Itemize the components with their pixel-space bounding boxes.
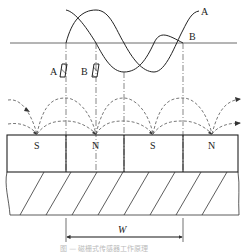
signal-a-label: A (201, 6, 209, 17)
substrate-base (6, 172, 239, 215)
head-b-label: B (81, 66, 88, 77)
sensor-head-b (92, 64, 99, 77)
pole-2-label: N (92, 140, 99, 151)
figure-caption: 图 — 磁栅式传感器工作原理 (60, 244, 148, 252)
field-arrowheads (24, 97, 241, 135)
head-a-label: A (50, 66, 58, 77)
signal-curve-b (66, 10, 183, 72)
dimension-w-label: W (118, 224, 128, 235)
signal-b-label: B (189, 31, 196, 42)
sensor-head-a (60, 64, 67, 77)
diagram-canvas: A B A B (0, 0, 248, 252)
pole-3-label: S (150, 140, 156, 151)
pole-1-label: S (34, 140, 40, 151)
magnet-strip (7, 135, 238, 172)
pole-4-label: N (208, 140, 215, 151)
